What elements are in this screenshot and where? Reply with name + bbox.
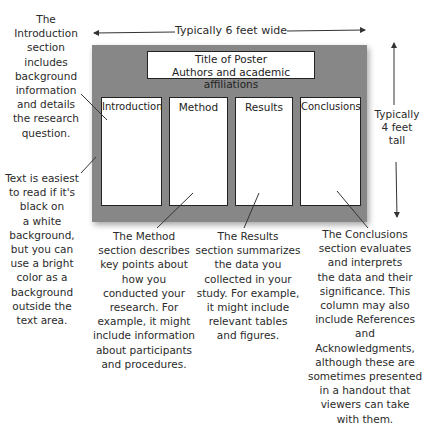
width-arrow-left [94, 32, 175, 33]
height-label: Typically 4 feet tall [370, 108, 424, 147]
annotation-background: Text is easiest to read if it's black on… [0, 171, 84, 327]
annotation-results: The Results section summarizes the data … [195, 229, 301, 343]
width-arrow-right [287, 30, 365, 31]
annotation-method: The Method section describes key points … [92, 229, 196, 371]
height-arrow-down [396, 162, 397, 217]
width-label: Typically 6 feet wide [175, 24, 287, 38]
annotation-introduction: The Introduction section includes backgr… [8, 12, 84, 140]
annotation-conclusions: The Conclusions section evaluates and in… [305, 227, 425, 426]
